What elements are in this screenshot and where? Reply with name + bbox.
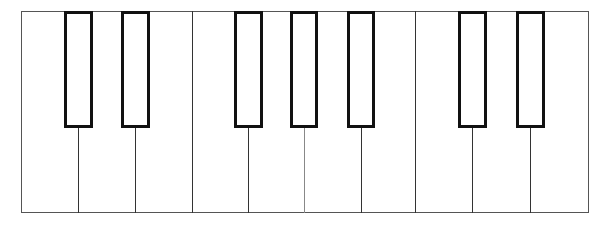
black-key-6[interactable]: [458, 11, 487, 128]
black-key-3[interactable]: [234, 11, 263, 128]
piano-keyboard: [0, 0, 608, 225]
black-key-4[interactable]: [290, 11, 318, 128]
black-key-2[interactable]: [121, 11, 150, 128]
black-key-5[interactable]: [347, 11, 375, 128]
black-key-1[interactable]: [64, 11, 93, 128]
black-key-7[interactable]: [516, 11, 545, 128]
